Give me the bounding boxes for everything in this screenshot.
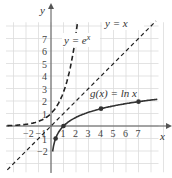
- y-tick-label: 7: [42, 34, 47, 45]
- curve-ln: [53, 99, 158, 151]
- data-point: [53, 136, 58, 141]
- data-point: [136, 99, 141, 104]
- label-exp-sup: x: [86, 33, 91, 42]
- x-tick-label: 6: [123, 128, 128, 139]
- label-exp: y = ex: [63, 33, 91, 46]
- y-tick-label: 5: [42, 59, 47, 70]
- x-tick-label: 4: [98, 128, 103, 139]
- y-axis-arrow-icon: [48, 3, 54, 9]
- x-tick-label: 2: [73, 128, 78, 139]
- y-tick-label: 3: [42, 84, 47, 95]
- x-tick-label: 7: [136, 128, 141, 139]
- data-point: [99, 106, 104, 111]
- y-tick-label: 4: [42, 71, 47, 82]
- x-tick-label: 3: [86, 128, 91, 139]
- x-tick-label: −2: [23, 128, 34, 139]
- chart: −2−1123456776543211−2 x y y = x y = ex g…: [0, 0, 172, 178]
- y-axis-label: y: [39, 4, 45, 16]
- y-tick-label: 6: [42, 46, 47, 57]
- data-point: [61, 124, 66, 129]
- y-tick-label: 2: [42, 96, 47, 107]
- label-ln: g(x) = ln x: [90, 87, 137, 100]
- y-tick-label: −2: [37, 146, 48, 157]
- x-axis-label: x: [159, 130, 165, 142]
- label-exp-base: y = e: [63, 34, 87, 46]
- x-tick-label: 5: [111, 128, 116, 139]
- label-y-equals-x: y = x: [104, 17, 128, 29]
- x-axis-arrow-icon: [166, 123, 172, 129]
